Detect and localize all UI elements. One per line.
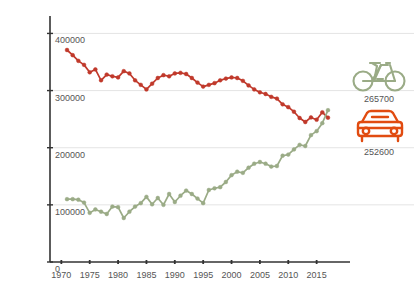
bicycle-icon <box>350 52 408 94</box>
y-tick-label: 300000 <box>55 93 85 103</box>
data-series-layer <box>65 48 330 220</box>
x-tick-label: 1990 <box>159 270 191 280</box>
car-icon <box>352 107 408 147</box>
x-tick-label: 1985 <box>130 270 162 280</box>
axis-lines <box>50 16 350 262</box>
x-tick-label: 2015 <box>301 270 333 280</box>
series-bicycle <box>65 108 330 220</box>
x-tick-label: 1980 <box>102 270 134 280</box>
x-tick-label: 1970 <box>45 270 77 280</box>
bicycle-value-label: 265700 <box>350 94 408 104</box>
car-value-label: 252600 <box>350 147 408 157</box>
x-tick-label: 1975 <box>74 270 106 280</box>
x-tick-label: 2005 <box>244 270 276 280</box>
y-tick-label: 200000 <box>55 150 85 160</box>
y-tick-label: 100000 <box>55 207 85 217</box>
chart-container: 0100000200000300000400000 19701975198019… <box>0 0 419 297</box>
x-tick-label: 2000 <box>216 270 248 280</box>
x-tick-label: 1995 <box>187 270 219 280</box>
x-tick-label: 2010 <box>272 270 304 280</box>
series-car <box>65 48 330 124</box>
y-tick-label: 400000 <box>55 35 85 45</box>
